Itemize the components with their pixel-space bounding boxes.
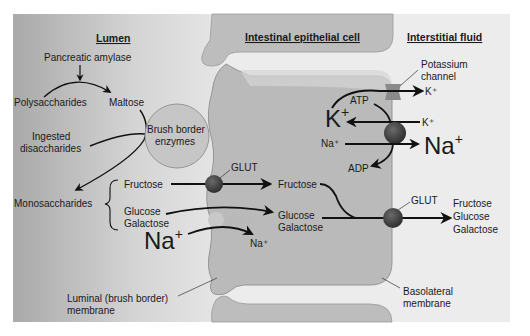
label-ingested: Ingested	[32, 131, 70, 142]
glucose-absorption-diagram: Lumen Intestinal epithelial cell Interst…	[0, 0, 530, 336]
label-k-in: K⁺	[422, 117, 434, 128]
label-apical-glut: GLUT	[231, 162, 258, 173]
label-out-fructose: Fructose	[453, 198, 492, 209]
label-channel: channel	[421, 71, 456, 82]
label-cell-na: Na⁺	[250, 238, 268, 249]
label-atp: ATP	[350, 95, 369, 106]
label-cell-fructose: Fructose	[278, 179, 317, 190]
label-monosaccharides: Monosaccharides	[14, 198, 92, 209]
label-luminal: Luminal (brush border)	[67, 293, 168, 304]
label-cell-na-in: Na⁺	[321, 138, 339, 149]
label-basolateral-membrane: membrane	[403, 298, 451, 309]
basolateral-glut-transporter	[383, 208, 403, 228]
sglt-transporter	[208, 212, 224, 228]
label-sglt: SGLT	[228, 215, 253, 226]
label-basolateral-glut: GLUT	[411, 195, 438, 206]
label-out-glucose: Glucose	[453, 211, 490, 222]
label-k-out: K⁺	[425, 86, 437, 97]
label-potassium: Potassium	[421, 59, 468, 70]
label-brush-border: Brush border	[147, 124, 205, 135]
label-enzymes: enzymes	[155, 136, 195, 147]
label-cell-galactose: Galactose	[278, 222, 323, 233]
header-cell: Intestinal epithelial cell	[245, 31, 360, 43]
header-interstitial: Interstitial fluid	[407, 31, 482, 43]
label-lumen-glucose: Glucose	[124, 206, 161, 217]
label-pancreatic-amylase: Pancreatic amylase	[44, 52, 132, 63]
label-polysaccharides: Polysaccharides	[14, 97, 87, 108]
label-basolateral: Basolateral	[403, 286, 453, 297]
label-maltose: Maltose	[109, 97, 144, 108]
label-cell-glucose: Glucose	[278, 210, 315, 221]
label-disaccharides: disaccharides	[20, 143, 81, 154]
label-lumen-fructose: Fructose	[124, 179, 163, 190]
label-out-galactose: Galactose	[453, 224, 498, 235]
label-luminal-membrane: membrane	[67, 305, 115, 316]
na-k-atpase-pump	[384, 122, 406, 144]
label-adp: ADP	[348, 163, 369, 174]
header-lumen: Lumen	[96, 32, 130, 44]
